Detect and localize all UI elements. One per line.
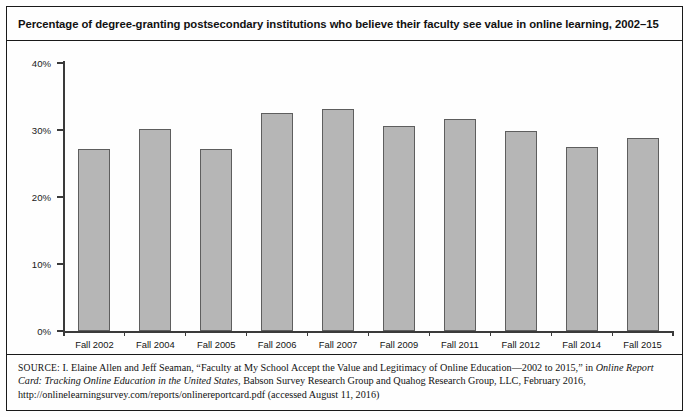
- x-axis-tick: [490, 331, 491, 336]
- y-axis-tick-label: 0%: [7, 326, 51, 337]
- x-axis-tick: [672, 331, 673, 336]
- bar: [383, 126, 415, 331]
- x-axis-tick-label: Fall 2007: [319, 339, 358, 350]
- bar: [322, 109, 354, 331]
- y-axis-tick-label: 30%: [7, 125, 51, 136]
- bar-slot: [566, 41, 598, 331]
- bar: [139, 129, 171, 331]
- page-title: Percentage of degree-granting postsecond…: [7, 18, 659, 30]
- bar-slot: [383, 41, 415, 331]
- y-axis-tick-label: 40%: [7, 58, 51, 69]
- x-axis-tick: [246, 331, 247, 336]
- bar: [261, 113, 293, 331]
- x-axis-tick: [63, 331, 64, 336]
- source-label: SOURCE:: [18, 362, 60, 373]
- bar-slot: [627, 41, 659, 331]
- bar-slot: [505, 41, 537, 331]
- x-axis-tick: [307, 331, 308, 336]
- bar: [566, 147, 598, 331]
- x-axis-tick-label: Fall 2004: [136, 339, 175, 350]
- x-axis-tick-label: Fall 2012: [501, 339, 540, 350]
- bar: [78, 149, 110, 331]
- bar: [200, 149, 232, 331]
- bar-slot: [322, 41, 354, 331]
- y-axis-tick-label: 10%: [7, 259, 51, 270]
- bar-slot: [200, 41, 232, 331]
- bar-slot: [444, 41, 476, 331]
- source-text: SOURCE: I. Elaine Allen and Jeff Seaman,…: [18, 361, 670, 401]
- plot-area: 0%10%20%30%40% Fall 2002Fall 2004Fall 20…: [7, 41, 682, 352]
- x-axis-tick-label: Fall 2015: [623, 339, 662, 350]
- x-axis-tick-label: Fall 2009: [380, 339, 419, 350]
- bar: [627, 138, 659, 331]
- x-axis-tick: [368, 331, 369, 336]
- bar: [505, 131, 537, 331]
- x-axis-tick: [185, 331, 186, 336]
- bar-slot: [139, 41, 171, 331]
- x-axis-tick-label: Fall 2014: [562, 339, 601, 350]
- bars-layer: [64, 41, 658, 331]
- x-axis-tick: [551, 331, 552, 336]
- figure-title-bar: Percentage of degree-granting postsecond…: [7, 7, 682, 41]
- source-part-1: I. Elaine Allen and Jeff Seaman, “Facult…: [60, 362, 596, 373]
- bar: [444, 119, 476, 331]
- x-axis-tick: [124, 331, 125, 336]
- figure-frame: Percentage of degree-granting postsecond…: [6, 6, 683, 411]
- x-axis-tick: [612, 331, 613, 336]
- x-axis-tick-label: Fall 2006: [258, 339, 297, 350]
- x-axis-tick: [429, 331, 430, 336]
- bar-slot: [78, 41, 110, 331]
- bar-slot: [261, 41, 293, 331]
- x-axis-tick-label: Fall 2011: [441, 339, 479, 350]
- x-axis-tick-label: Fall 2005: [197, 339, 236, 350]
- y-axis-tick-label: 20%: [7, 192, 51, 203]
- source-note: SOURCE: I. Elaine Allen and Jeff Seaman,…: [7, 354, 682, 410]
- figure-container: Percentage of degree-granting postsecond…: [0, 0, 690, 417]
- x-axis-tick-label: Fall 2002: [75, 339, 114, 350]
